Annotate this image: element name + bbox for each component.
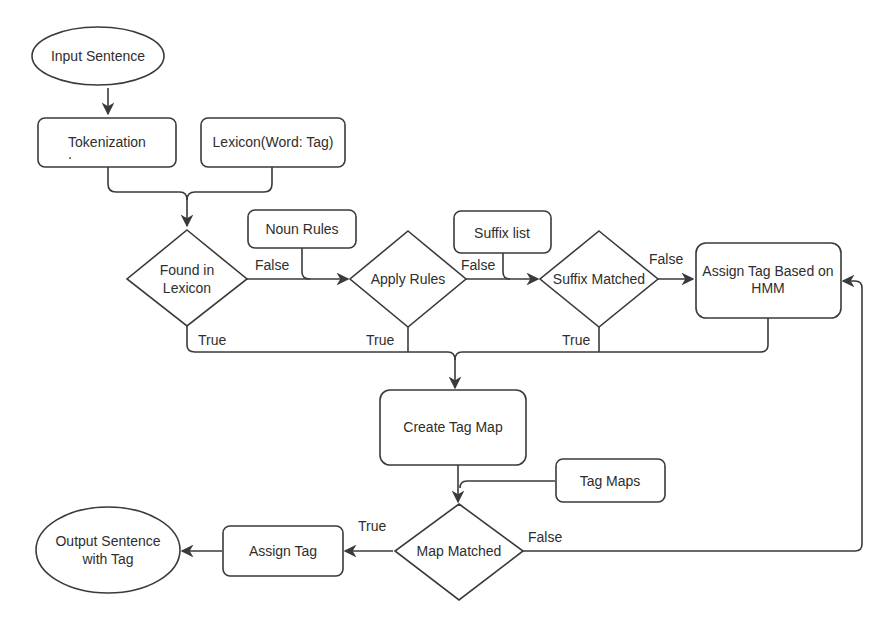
label-map-false: False — [528, 529, 562, 545]
node-suffix-matched[interactable]: Suffix Matched — [540, 231, 658, 327]
node-suffix-list[interactable]: Suffix list — [454, 211, 551, 253]
label-suffix-false: False — [649, 251, 683, 267]
node-label: Tag Maps — [580, 473, 641, 489]
edge-noun-rules-join — [302, 248, 310, 279]
node-create-tag-map[interactable]: Create Tag Map — [380, 390, 526, 465]
label-map-true: True — [358, 518, 386, 534]
node-label-line1: Found in — [160, 262, 214, 278]
node-label: Map Matched — [417, 543, 502, 559]
node-label: Apply Rules — [371, 271, 446, 287]
flowchart-canvas: Input Sentence Tokenization Lexicon(Word… — [0, 0, 890, 629]
label-found-true: True — [198, 332, 226, 348]
node-found-in-lexicon[interactable]: Found in Lexicon — [127, 230, 247, 326]
node-label: Create Tag Map — [403, 419, 503, 435]
node-assign-tag[interactable]: Assign Tag — [223, 526, 343, 576]
stray-dot — [69, 157, 71, 159]
node-label: Input Sentence — [51, 48, 145, 64]
node-assign-tag-hmm[interactable]: Assign Tag Based on HMM — [696, 243, 841, 318]
edge-hmm-to-bus — [455, 318, 768, 360]
node-label: Assign Tag — [249, 543, 317, 559]
edge-found-true — [187, 326, 455, 388]
node-label: Suffix Matched — [553, 271, 645, 287]
node-label-line2: with Tag — [81, 551, 133, 567]
label-found-false: False — [255, 257, 289, 273]
node-label-line1: Assign Tag Based on — [702, 263, 833, 279]
node-lexicon[interactable]: Lexicon(Word: Tag) — [201, 118, 345, 167]
label-apply-true: True — [366, 332, 394, 348]
node-apply-rules[interactable]: Apply Rules — [350, 231, 466, 327]
edge-lexicon-merge — [187, 167, 272, 200]
node-label-line1: Output Sentence — [55, 533, 160, 549]
node-output-sentence[interactable]: Output Sentence with Tag — [36, 507, 180, 593]
label-suffix-true: True — [562, 332, 590, 348]
node-map-matched[interactable]: Map Matched — [395, 504, 523, 600]
edge-tokenization-merge — [108, 167, 187, 226]
edge-tag-maps-join — [460, 481, 555, 488]
node-input-sentence[interactable]: Input Sentence — [32, 27, 164, 85]
edge-suffix-list-join — [503, 253, 510, 279]
node-label: Tokenization — [68, 134, 146, 150]
node-label-line2: Lexicon — [163, 280, 211, 296]
node-noun-rules[interactable]: Noun Rules — [248, 210, 356, 248]
label-apply-false: False — [461, 257, 495, 273]
node-label: Suffix list — [474, 225, 530, 241]
node-label: Lexicon(Word: Tag) — [213, 134, 334, 150]
node-label-line2: HMM — [751, 280, 784, 296]
node-tag-maps[interactable]: Tag Maps — [556, 459, 665, 502]
node-label: Noun Rules — [265, 221, 338, 237]
node-tokenization[interactable]: Tokenization — [38, 118, 176, 167]
edge-map-false-loop — [523, 281, 862, 551]
